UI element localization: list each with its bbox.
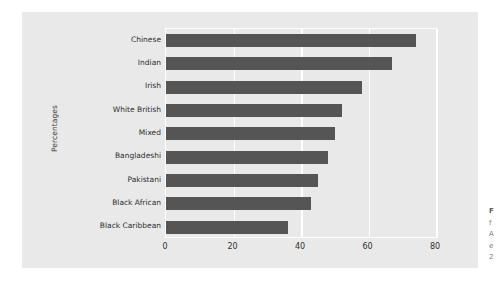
caption-line: F [489,206,501,218]
bar [166,34,416,47]
category-label: Bangladeshi [41,151,161,161]
bar-row [166,99,436,122]
bar-row [166,29,436,52]
bar [166,197,311,210]
figure-root: Percentages ChineseIndianIrishWhite Brit… [0,0,501,284]
x-tick-label: 0 [145,242,185,251]
bar [166,57,392,70]
category-label: White British [41,105,161,115]
bar [166,151,328,164]
bar [166,221,288,234]
bar [166,127,335,140]
x-tick-label: 20 [213,242,253,251]
bar-row [166,169,436,192]
category-label: Black Caribbean [41,221,161,231]
figure-caption-cutoff: FfAe2 [489,206,501,270]
y-axis-category-labels: ChineseIndianIrishWhite BritishMixedBang… [35,28,161,238]
bar-row [166,122,436,145]
x-tick-label: 80 [415,242,455,251]
caption-line: e [489,241,501,253]
category-label: Mixed [41,128,161,138]
bar-row [166,52,436,75]
caption-line: 2 [489,252,501,264]
bar-row [166,76,436,99]
x-axis-tick-labels: 020406080 [165,242,439,258]
bar [166,81,362,94]
category-label: Indian [41,58,161,68]
category-label: Irish [41,81,161,91]
x-tick-label: 40 [280,242,320,251]
category-label: Black African [41,198,161,208]
bar [166,174,318,187]
caption-line: A [489,229,501,241]
bar-row [166,216,436,239]
caption-line: f [489,218,501,230]
category-label: Chinese [41,35,161,45]
chart-panel: Percentages ChineseIndianIrishWhite Brit… [22,12,478,268]
bar [166,104,342,117]
bar-row [166,146,436,169]
category-label: Pakistani [41,175,161,185]
gridline-80 [436,29,438,237]
plot-area [165,28,437,238]
x-tick-label: 60 [348,242,388,251]
bar-row [166,192,436,215]
